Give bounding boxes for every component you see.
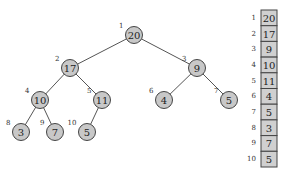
cell-value: 5 bbox=[266, 107, 272, 118]
array-cell: 38 bbox=[252, 120, 277, 136]
cell-value: 7 bbox=[266, 138, 272, 149]
heap-diagram: 2011729310411546573879510 20117293104115… bbox=[0, 0, 289, 181]
cell-index: 9 bbox=[252, 139, 256, 147]
node-value: 5 bbox=[226, 95, 232, 106]
tree-node: 115 bbox=[87, 87, 110, 109]
tree-node: 93 bbox=[182, 55, 205, 77]
cell-value: 10 bbox=[263, 60, 276, 71]
cell-value: 11 bbox=[263, 76, 276, 87]
tree-node: 104 bbox=[25, 87, 48, 109]
node-value: 4 bbox=[161, 95, 167, 106]
tree-nodes: 2011729310411546573879510 bbox=[6, 22, 237, 141]
heap-array: 2011729310411546573879510 bbox=[247, 10, 277, 167]
tree-edge bbox=[70, 35, 134, 68]
node-value: 10 bbox=[34, 95, 47, 106]
cell-value: 9 bbox=[266, 44, 272, 55]
cell-index: 5 bbox=[252, 77, 256, 85]
node-index: 8 bbox=[6, 119, 10, 127]
tree-node: 46 bbox=[149, 87, 172, 109]
array-cell: 46 bbox=[252, 89, 277, 105]
tree-edge bbox=[134, 35, 197, 68]
node-value: 3 bbox=[18, 127, 24, 138]
tree-node: 79 bbox=[40, 119, 63, 141]
node-value: 7 bbox=[52, 127, 58, 138]
cell-value: 20 bbox=[263, 13, 276, 24]
array-cell: 115 bbox=[252, 73, 277, 89]
node-value: 9 bbox=[194, 63, 200, 74]
node-index: 6 bbox=[149, 87, 154, 95]
node-index: 4 bbox=[25, 87, 30, 95]
tree-edges bbox=[21, 35, 229, 132]
cell-index: 8 bbox=[252, 124, 256, 132]
array-cell: 172 bbox=[252, 26, 277, 42]
array-cell: 510 bbox=[247, 151, 277, 167]
array-cell: 79 bbox=[252, 136, 277, 152]
node-index: 9 bbox=[40, 119, 44, 127]
cell-value: 5 bbox=[266, 154, 272, 165]
cell-index: 7 bbox=[252, 108, 256, 116]
node-index: 10 bbox=[68, 119, 77, 127]
node-index: 5 bbox=[87, 87, 91, 95]
node-index: 3 bbox=[182, 55, 186, 63]
node-value: 11 bbox=[96, 95, 109, 106]
cell-index: 1 bbox=[252, 14, 256, 22]
cell-index: 3 bbox=[252, 45, 256, 53]
node-index: 2 bbox=[55, 55, 59, 63]
tree-node: 172 bbox=[55, 55, 78, 77]
cell-value: 17 bbox=[263, 29, 276, 40]
cell-index: 6 bbox=[252, 92, 257, 100]
tree-node: 57 bbox=[214, 87, 237, 109]
tree-node: 201 bbox=[119, 22, 142, 44]
cell-index: 10 bbox=[247, 155, 256, 163]
cell-value: 4 bbox=[266, 91, 272, 102]
cell-value: 3 bbox=[266, 123, 272, 134]
array-cell: 57 bbox=[252, 104, 277, 120]
node-value: 20 bbox=[128, 30, 141, 41]
cell-index: 4 bbox=[252, 61, 257, 69]
node-index: 7 bbox=[214, 87, 218, 95]
node-value: 5 bbox=[84, 127, 90, 138]
node-index: 1 bbox=[119, 22, 123, 30]
cell-index: 2 bbox=[252, 30, 256, 38]
array-cell: 93 bbox=[252, 41, 277, 57]
array-cell: 104 bbox=[252, 57, 277, 73]
node-value: 17 bbox=[64, 63, 77, 74]
array-cell: 201 bbox=[252, 10, 277, 26]
tree-node: 38 bbox=[6, 119, 29, 141]
